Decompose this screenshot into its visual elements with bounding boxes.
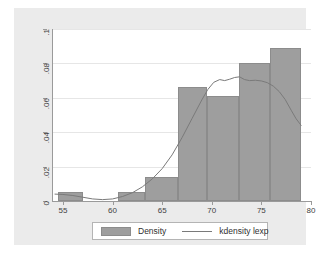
x-tick-label: 55 (58, 206, 67, 216)
y-tick-label: .06 (42, 98, 52, 109)
y-tick-label: 0 (42, 201, 52, 205)
legend-swatch-density (101, 227, 131, 236)
y-tick-label: .1 (42, 29, 52, 36)
y-tick-label: .04 (42, 132, 52, 143)
plot-area: 0.02.04.06.08.1 556065707580 (52, 29, 311, 202)
legend-label-density: Density (138, 226, 166, 236)
legend-label-kdensity: kdensity lexp (219, 226, 268, 236)
legend-item-density[interactable]: Density (101, 226, 166, 236)
x-tick-label: 65 (158, 206, 167, 216)
x-tick-mark (261, 201, 262, 205)
kdensity-polyline (55, 77, 301, 200)
y-tick-label: .08 (42, 63, 52, 74)
x-tick-mark (162, 201, 163, 205)
x-tick-mark (212, 201, 213, 205)
y-tick-label: .02 (42, 167, 52, 178)
x-tick-mark (311, 201, 312, 205)
legend-line-kdensity (182, 231, 212, 232)
kdensity-curve (53, 29, 311, 201)
graph-region: 0.02.04.06.08.1 556065707580 Density kde… (14, 8, 306, 245)
x-tick-mark (63, 201, 64, 205)
x-tick-label: 60 (108, 206, 117, 216)
legend-item-kdensity[interactable]: kdensity lexp (182, 226, 268, 236)
x-tick-mark (113, 201, 114, 205)
x-tick-label: 70 (207, 206, 216, 216)
figure-canvas: 0.02.04.06.08.1 556065707580 Density kde… (0, 0, 320, 253)
x-tick-label: 75 (257, 206, 266, 216)
x-tick-label: 80 (307, 206, 316, 216)
chart-legend: Density kdensity lexp (92, 222, 268, 240)
